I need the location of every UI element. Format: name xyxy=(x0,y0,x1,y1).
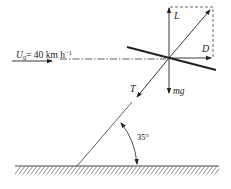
tension-arrow xyxy=(137,58,169,97)
lift-label: L xyxy=(173,10,180,21)
drag-label: D xyxy=(201,43,210,54)
weight-label: mg xyxy=(173,86,185,96)
angle-arc xyxy=(121,123,137,164)
wind-speed-label: U0= 40 km h−1 xyxy=(16,49,72,62)
tether-line xyxy=(77,102,132,166)
ground xyxy=(15,166,219,174)
tension-label: T xyxy=(130,83,137,94)
angle-label: 35° xyxy=(137,132,149,142)
kite-force-diagram: U0= 40 km h−1 L D T mg 35° xyxy=(0,0,231,189)
